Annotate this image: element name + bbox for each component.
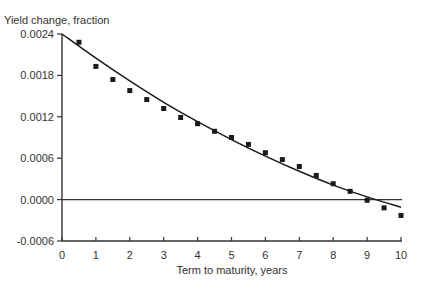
data-point-marker xyxy=(314,173,319,178)
fitted-curve xyxy=(62,34,401,207)
y-axis-label: Yield change, fraction xyxy=(4,14,109,26)
data-point-marker xyxy=(127,88,132,93)
x-tick-label: 7 xyxy=(296,249,302,261)
y-tick-label: 0.0000 xyxy=(20,194,54,206)
x-tick-label: 2 xyxy=(127,249,133,261)
data-point-marker xyxy=(161,106,166,111)
x-tick-label: 8 xyxy=(330,249,336,261)
data-point-marker xyxy=(382,205,387,210)
data-point-marker xyxy=(348,189,353,194)
data-point-marker xyxy=(195,121,200,126)
x-tick-label: 3 xyxy=(161,249,167,261)
y-tick-label: 0.0018 xyxy=(20,69,54,81)
chart: Yield change, fraction 0.00240.00180.001… xyxy=(0,0,424,288)
y-tick-label: 0.0024 xyxy=(20,28,54,40)
x-tick-label: 9 xyxy=(364,249,370,261)
x-tick-label: 0 xyxy=(59,249,65,261)
y-tick-label: -0.0006 xyxy=(17,235,54,247)
data-point-marker xyxy=(399,213,404,218)
y-tick-label: 0.0006 xyxy=(20,152,54,164)
data-point-marker xyxy=(178,115,183,120)
x-tick-label: 10 xyxy=(395,249,407,261)
x-tick-label: 6 xyxy=(262,249,268,261)
data-point-marker xyxy=(229,135,234,140)
data-point-marker xyxy=(365,198,370,203)
data-point-marker xyxy=(246,142,251,147)
data-point-marker xyxy=(263,150,268,155)
data-point-marker xyxy=(144,97,149,102)
data-markers xyxy=(76,40,403,218)
data-point-marker xyxy=(212,129,217,134)
x-axis-label: Term to maturity, years xyxy=(176,264,288,276)
x-tick-label: 5 xyxy=(228,249,234,261)
data-point-marker xyxy=(297,164,302,169)
x-tick-label: 1 xyxy=(93,249,99,261)
x-tick-label: 4 xyxy=(195,249,201,261)
data-point-marker xyxy=(93,64,98,69)
data-point-marker xyxy=(331,181,336,186)
y-axis-ticks: 0.00240.00180.00120.00060.0000-0.0006 xyxy=(17,28,62,247)
data-point-marker xyxy=(110,77,115,82)
y-tick-label: 0.0012 xyxy=(20,111,54,123)
data-point-marker xyxy=(280,157,285,162)
data-point-marker xyxy=(76,40,81,45)
